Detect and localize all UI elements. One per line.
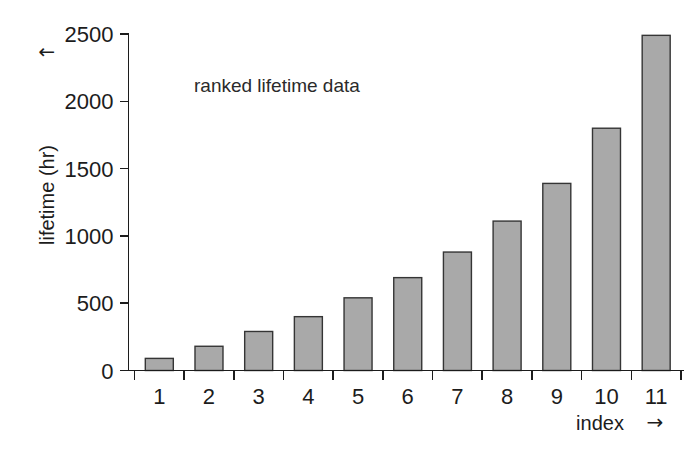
bar xyxy=(592,128,620,370)
x-tick-label: 11 xyxy=(645,384,668,409)
chart-figure: 05001000150020002500 1234567891011 ranke… xyxy=(0,0,697,451)
bar xyxy=(245,331,273,370)
x-tick-label: 5 xyxy=(352,384,364,409)
y-axis-title: lifetime (hr) xyxy=(36,145,58,245)
bar xyxy=(145,358,173,370)
chart-annotation: ranked lifetime data xyxy=(194,75,360,96)
y-axis-arrow-icon: ↑ xyxy=(35,44,59,61)
ranked-lifetime-bar-chart: 05001000150020002500 1234567891011 ranke… xyxy=(0,0,697,451)
x-tick-label: 8 xyxy=(501,384,513,409)
bar xyxy=(294,317,322,371)
x-tick-label: 2 xyxy=(203,384,215,409)
x-tick-label: 1 xyxy=(153,384,165,409)
x-tick-label: 10 xyxy=(594,384,618,409)
y-tick-label: 0 xyxy=(101,359,113,384)
bar xyxy=(543,183,571,370)
x-tick-label: 3 xyxy=(253,384,265,409)
bar xyxy=(642,35,670,370)
y-tick-label: 2000 xyxy=(65,89,114,114)
bar xyxy=(344,298,372,371)
x-axis-title: index xyxy=(576,412,624,434)
bar xyxy=(394,278,422,371)
bar xyxy=(443,252,471,370)
x-tick-label: 7 xyxy=(451,384,463,409)
x-tick-label: 6 xyxy=(402,384,414,409)
bar xyxy=(493,221,521,370)
y-tick-label: 500 xyxy=(77,291,114,316)
bar xyxy=(195,346,223,370)
y-tick-label: 1500 xyxy=(65,157,114,182)
y-tick-label: 1000 xyxy=(65,224,114,249)
x-tick-label: 4 xyxy=(302,384,314,409)
x-axis-arrow-icon: → xyxy=(647,410,664,434)
x-tick-label: 9 xyxy=(551,384,563,409)
y-tick-label: 2500 xyxy=(65,22,114,47)
x-axis-title-group: index → xyxy=(576,410,663,434)
